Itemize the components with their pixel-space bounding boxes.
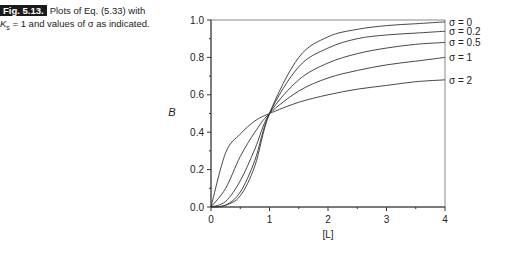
series-line: [211, 57, 445, 207]
legend: σ = 0σ = 0.2σ = 0.5σ = 1σ = 2: [449, 17, 481, 86]
legend-label: σ = 1: [449, 52, 473, 63]
x-tick-label: 2: [325, 214, 331, 225]
y-axis-label: B: [168, 106, 175, 118]
y-tick-label: 0.0: [190, 202, 204, 213]
x-tick-label: 1: [267, 214, 273, 225]
series-line: [211, 31, 445, 207]
curves: [211, 22, 445, 207]
x-axis-label: [L]: [322, 229, 333, 240]
x-tick-label: 3: [384, 214, 390, 225]
legend-label: σ = 2: [449, 75, 473, 86]
x-tick-label: 0: [208, 214, 214, 225]
series-line: [211, 80, 445, 207]
series-line: [211, 22, 445, 207]
y-tick-label: 0.2: [190, 164, 204, 175]
legend-label: σ = 0.2: [449, 26, 481, 37]
y-tick-label: 0.4: [190, 127, 204, 138]
y-tick-label: 0.8: [190, 52, 204, 63]
y-tick-label: 1.0: [190, 15, 204, 26]
axes: 0.00.20.40.60.81.001234: [190, 15, 448, 226]
y-tick-label: 0.6: [190, 89, 204, 100]
binding-curve-chart: 0.00.20.40.60.81.001234 σ = 0σ = 0.2σ = …: [0, 0, 508, 256]
x-tick-label: 4: [442, 214, 448, 225]
legend-label: σ = 0.5: [449, 37, 481, 48]
